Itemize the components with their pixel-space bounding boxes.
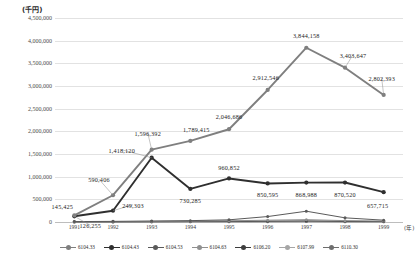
chart-legend: 6104.336104.436104.536104.636106.206107.… xyxy=(60,241,410,253)
data-point-marker xyxy=(382,190,386,194)
legend-swatch-icon xyxy=(235,244,251,251)
data-point-marker xyxy=(188,139,192,143)
legend-item[interactable]: 6104.33 xyxy=(60,244,95,251)
x-axis-tick-label: 1996 xyxy=(262,224,273,230)
data-point-marker xyxy=(305,218,308,221)
data-point-label: 3,844,158 xyxy=(293,31,320,38)
data-point-marker xyxy=(227,176,231,180)
data-point-label: 1,789,415 xyxy=(183,125,210,132)
y-axis-tick-label: 3,500,000 xyxy=(28,60,52,66)
y-axis-unit-label: (千円) xyxy=(22,4,42,14)
legend-label: 6104.53 xyxy=(166,244,183,250)
legend-label: 6104.43 xyxy=(122,244,139,250)
data-point-marker xyxy=(305,210,308,213)
legend-label: 6106.20 xyxy=(253,244,270,250)
data-point-marker xyxy=(266,181,270,185)
y-axis-tick-label: 4,500,000 xyxy=(28,15,52,21)
data-point-marker xyxy=(304,181,308,185)
y-axis-tick-label: 3,000,000 xyxy=(28,83,52,89)
legend-label: 6104.63 xyxy=(210,244,227,250)
data-point-marker xyxy=(343,180,347,184)
line-chart: (千円) 0500,0001,000,0001,500,0002,000,000… xyxy=(0,0,419,260)
legend-item[interactable]: 6104.63 xyxy=(192,244,227,251)
data-point-label: 960,852 xyxy=(218,164,240,171)
x-axis-tick-label: 1994 xyxy=(185,224,196,230)
data-point-label: 657,715 xyxy=(367,202,389,209)
legend-item[interactable]: 6110.30 xyxy=(323,244,358,251)
legend-label: 6107.99 xyxy=(297,244,314,250)
legend-swatch-icon xyxy=(192,244,208,251)
x-axis-unit-label: (年) xyxy=(404,224,414,232)
legend-swatch-icon xyxy=(148,244,164,251)
data-point-marker xyxy=(382,219,385,222)
data-point-marker xyxy=(189,219,192,222)
data-point-marker xyxy=(304,46,308,50)
data-point-marker xyxy=(188,187,192,191)
y-axis-tick-label: 4,000,000 xyxy=(28,38,52,44)
legend-swatch-icon xyxy=(323,244,339,251)
data-point-label: 145,425 xyxy=(52,203,74,210)
plot-area: 145,425590,4061,596,3921,789,4152,046,68… xyxy=(55,18,403,222)
x-axis-tick-label: 1992 xyxy=(107,224,118,230)
data-point-label: 249,303 xyxy=(122,201,144,208)
data-point-marker xyxy=(228,218,231,221)
data-point-label: 850,595 xyxy=(257,191,279,198)
legend-item[interactable]: 6104.43 xyxy=(104,244,139,251)
x-axis-tick-label: 1991 xyxy=(69,224,80,230)
data-point-label: 870,520 xyxy=(334,190,356,197)
data-point-label: 2,046,686 xyxy=(216,113,243,120)
legend-label: 6110.30 xyxy=(341,244,358,250)
y-axis-tick-label: 2,500,000 xyxy=(28,106,52,112)
data-point-label: 2,802,393 xyxy=(368,74,395,81)
data-point-label: 868,988 xyxy=(296,190,318,197)
data-point-marker xyxy=(344,219,347,222)
data-point-label: 2,912,546 xyxy=(252,73,279,80)
data-point-marker xyxy=(266,215,269,218)
data-point-label: 3,403,647 xyxy=(340,51,367,58)
data-point-marker xyxy=(73,220,76,223)
y-axis-tick-label: 2,000,000 xyxy=(28,128,52,134)
data-point-marker xyxy=(343,66,347,70)
data-point-marker xyxy=(227,127,231,131)
y-axis-tick-label: 1,000,000 xyxy=(28,174,52,180)
data-point-label: 590,406 xyxy=(88,176,110,183)
data-point-marker xyxy=(266,88,270,92)
data-point-label: 1,418,120 xyxy=(108,146,135,153)
data-point-label: 730,285 xyxy=(180,196,202,203)
legend-swatch-icon xyxy=(60,244,76,251)
y-axis-tick-label: 0 xyxy=(49,219,52,225)
legend-swatch-icon xyxy=(104,244,120,251)
y-axis-tick-label: 1,500,000 xyxy=(28,151,52,157)
y-axis-tick-labels: 0500,0001,000,0001,500,0002,000,0002,500… xyxy=(0,18,52,222)
data-point-marker xyxy=(266,219,269,222)
legend-item[interactable]: 6107.99 xyxy=(279,244,314,251)
legend-item[interactable]: 6106.20 xyxy=(235,244,270,251)
data-point-marker xyxy=(150,220,153,223)
data-point-marker xyxy=(112,220,115,223)
data-point-label: 1,596,392 xyxy=(134,129,161,136)
legend-label: 6104.33 xyxy=(78,244,95,250)
x-axis-tick-label: 1997 xyxy=(301,224,312,230)
x-axis-tick-label: 1998 xyxy=(339,224,350,230)
legend-swatch-icon xyxy=(279,244,295,251)
data-point-marker xyxy=(344,216,347,219)
x-axis-tick-label: 1999 xyxy=(378,224,389,230)
x-axis-tick-label: 1995 xyxy=(223,224,234,230)
x-axis-tick-labels: 199119921993199419951996199719981999 xyxy=(55,224,403,236)
legend-item[interactable]: 6104.53 xyxy=(148,244,183,251)
y-axis-tick-label: 500,000 xyxy=(33,196,53,202)
x-axis-tick-label: 1993 xyxy=(146,224,157,230)
